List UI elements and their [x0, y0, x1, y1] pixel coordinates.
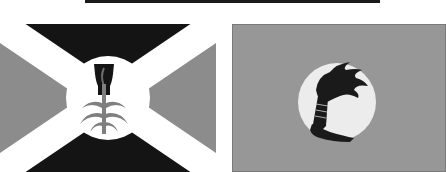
torch-flag-graphic	[232, 24, 446, 172]
flag-left	[0, 24, 216, 172]
flag-right	[232, 24, 446, 172]
saltire-flag-graphic	[0, 24, 216, 172]
top-bar	[85, 0, 380, 3]
